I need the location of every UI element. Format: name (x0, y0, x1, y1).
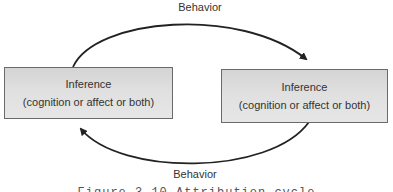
right-inference-title: Inference (282, 81, 328, 93)
top-behavior-label: Behavior (170, 1, 230, 13)
right-inference-subtitle: (cognition or affect or both) (239, 99, 370, 111)
figure-caption-text: Figure 3.10 Attribution cycle (0, 186, 393, 192)
diagram-canvas: Behavior Inference (cognition or affect … (0, 0, 393, 192)
left-inference-box: Inference (cognition or affect or both) (4, 67, 173, 119)
bottom-behavior-label: Behavior (165, 168, 225, 180)
top-behavior-arrow (73, 24, 306, 67)
right-inference-box: Inference (cognition or affect or both) (221, 69, 388, 123)
bottom-behavior-arrow (81, 122, 309, 163)
figure-caption: Figure 3.10 Attribution cycle (0, 186, 393, 192)
left-inference-subtitle: (cognition or affect or both) (23, 96, 154, 108)
left-inference-title: Inference (66, 78, 112, 90)
